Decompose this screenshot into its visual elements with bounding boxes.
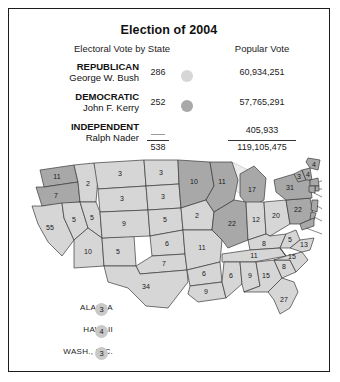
state-value-wa: 11 [53,173,60,180]
dash-icon [151,134,165,135]
state-value-ca: 55 [46,224,54,231]
result-row-republican: REPUBLICAN George W. Bush 286 60,934,251 [9,61,329,87]
electoral-vote: 252 [145,97,171,107]
state-value-fl: 27 [280,296,288,303]
state-value-al: 9 [248,272,252,279]
state-value-nc: 15 [288,253,296,260]
state-value-ky: 8 [262,240,266,247]
legend-row-alaska: ALASKA 3 [9,303,199,317]
state-value-mo: 11 [198,244,205,251]
column-header-popular: Popular Vote [214,43,310,54]
party-name: INDEPENDENT [29,121,139,132]
state-value-me: 4 [312,161,316,168]
swatch-cell [177,96,197,114]
state-value-sd: 3 [161,193,165,200]
state-value-az: 10 [84,248,92,255]
popular-vote-total: 119,105,475 [214,142,310,152]
party-name: REPUBLICAN [29,61,139,72]
result-row-democratic: DEMOCRATIC John F. Kerry 252 57,765,291 [9,91,329,117]
legend-value-alaska: 3 [95,303,108,316]
legend-row-hawaii: HAWAII 4 [9,325,199,339]
state-value-nv: 5 [72,216,76,223]
state-value-ut: 5 [90,214,94,221]
candidate-name: John F. Kerry [29,102,139,113]
state-value-nm: 5 [116,248,120,255]
state-ct [309,186,315,193]
state-value-ms: 6 [229,272,233,279]
state-value-ne: 5 [163,216,167,223]
state-value-ia: 2 [195,212,199,219]
state-value-vt: 3 [297,173,301,180]
state-value-or: 7 [54,192,58,199]
democratic-swatch-circle [181,100,193,112]
legend-value-washington-dc: 3 [95,347,108,360]
state-value-pa: 22 [294,206,302,213]
column-header-electoral: Electoral Vote by State [47,43,197,54]
popular-vote: 60,934,251 [214,67,310,77]
state-value-il: 22 [228,220,236,227]
state-value-ks: 6 [165,240,169,247]
state-value-co: 9 [122,220,126,227]
state-value-nh: 4 [306,171,310,178]
leader-line-ma [319,177,322,182]
electoral-total-rule [147,140,169,141]
state-ms [222,262,242,298]
electoral-vote-total: 538 [145,142,171,152]
state-value-wy: 3 [120,195,124,202]
state-value-tx: 34 [142,283,150,290]
page-title: Election of 2004 [9,23,329,37]
state-value-in: 12 [252,216,260,223]
state-value-mn: 10 [190,178,198,185]
state-value-wv: 5 [288,236,292,243]
state-value-ga: 15 [262,272,270,279]
state-value-tn: 11 [250,252,257,259]
leader-line-de [314,217,322,225]
state-value-ar: 6 [202,270,206,277]
state-value-oh: 20 [272,212,280,219]
state-value-id: 2 [86,180,90,187]
state-value-va: 13 [300,241,308,248]
party-name: DEMOCRATIC [29,91,139,102]
figure-frame: Election of 2004 Electoral Vote by State… [8,8,330,372]
legend-row-washington-dc: WASH., D.C. 3 [9,347,199,361]
us-electoral-map: 11 7 55 5 2 3 3 5 10 5 9 3 3 5 6 7 34 10… [18,156,322,316]
state-value-mt: 3 [118,170,122,177]
republican-swatch-circle [181,70,193,82]
state-value-nd: 3 [159,169,163,176]
state-value-la: 9 [204,288,208,295]
state-value-mi: 17 [248,186,256,193]
state-ri [315,186,319,191]
swatch-cell [177,66,197,84]
state-value-wi: 11 [218,178,225,185]
electoral-vote: 286 [145,67,171,77]
popular-vote: 405,933 [214,125,310,135]
state-value-ok: 7 [162,260,166,267]
state-nj [311,200,318,212]
leader-line-md [306,228,322,237]
candidate-name: George W. Bush [29,72,139,83]
legend-value-hawaii: 4 [95,325,108,338]
popular-vote: 57,765,291 [214,97,310,107]
popular-total-rule [228,140,296,141]
state-value-ny: 31 [286,184,294,191]
state-value-sc: 8 [282,263,286,270]
